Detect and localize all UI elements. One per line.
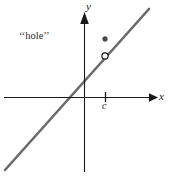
limit-graph-figure: y x c ‘‘hole’’ bbox=[0, 0, 170, 176]
filled-point-icon bbox=[103, 37, 108, 42]
graph-canvas bbox=[0, 0, 170, 176]
x-axis-label: x bbox=[159, 91, 164, 102]
y-axis-arrowhead bbox=[80, 12, 89, 24]
x-axis-arrowhead bbox=[149, 93, 158, 102]
tick-label-c: c bbox=[102, 101, 106, 111]
open-circle-hole-icon bbox=[102, 53, 108, 59]
hole-annotation-label: ‘‘hole’’ bbox=[19, 31, 50, 42]
y-axis-label: y bbox=[86, 1, 91, 12]
